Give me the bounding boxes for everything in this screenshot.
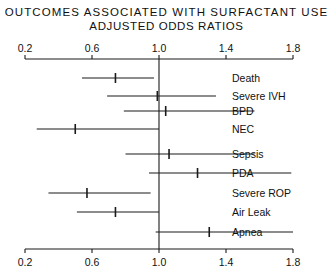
- axis-tick-labels: 0.20.61.01.41.8: [0, 42, 333, 56]
- forest-plot: OUTCOMES ASSOCIATED WITH SURFACTANT USE …: [0, 0, 333, 274]
- x-tick-label-bottom: 1.8: [286, 256, 301, 268]
- outcome-label: BPD: [232, 105, 254, 117]
- chart-subtitle: ADJUSTED ODDS RATIOS: [0, 18, 333, 34]
- outcome-label: Severe ROP: [232, 187, 291, 199]
- x-tick-label-top: 1.0: [152, 42, 167, 54]
- x-tick-label-top: 0.2: [18, 42, 33, 54]
- x-tick-label-bottom: 1.4: [219, 256, 234, 268]
- x-tick-label-top: 0.6: [85, 42, 100, 54]
- x-tick-label-bottom: 1.0: [152, 256, 167, 268]
- chart-title-block: OUTCOMES ASSOCIATED WITH SURFACTANT USE …: [0, 0, 333, 32]
- x-tick-label-top: 1.8: [286, 42, 301, 54]
- outcome-label: Severe IVH: [232, 90, 286, 102]
- outcome-label: PDA: [232, 167, 254, 179]
- outcome-label: Death: [232, 72, 260, 84]
- outcome-label: Sepsis: [232, 148, 264, 160]
- outcome-label: Apnea: [232, 226, 262, 238]
- outcome-label: Air Leak: [232, 206, 271, 218]
- x-tick-label-bottom: 0.2: [18, 256, 33, 268]
- x-tick-label-top: 1.4: [219, 42, 234, 54]
- x-tick-label-bottom: 0.6: [85, 256, 100, 268]
- outcome-label: NEC: [232, 123, 254, 135]
